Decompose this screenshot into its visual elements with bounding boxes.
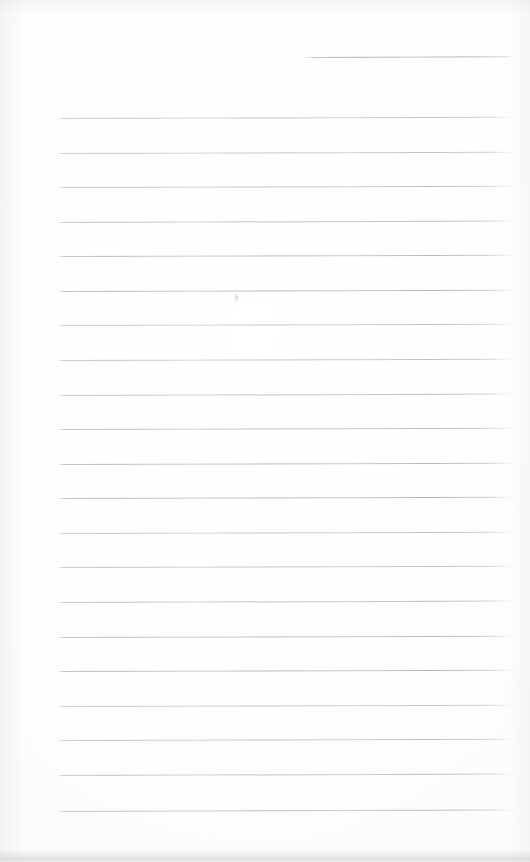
rule-line	[57, 635, 513, 637]
rule-line	[57, 739, 513, 741]
rule-line	[57, 497, 513, 499]
rule-line	[57, 566, 513, 568]
rule-line	[57, 186, 513, 188]
rule-line	[57, 462, 513, 464]
rule-line	[57, 393, 513, 395]
rule-line	[57, 809, 513, 812]
ruled-lines-layer	[0, 0, 530, 862]
rule-line	[57, 601, 513, 603]
scanned-page	[0, 0, 530, 862]
rule-line	[57, 290, 513, 292]
rule-line	[57, 773, 513, 775]
rule-line	[57, 428, 513, 430]
rule-line	[57, 220, 513, 222]
rule-line	[57, 117, 513, 119]
rule-line	[57, 324, 513, 326]
rule-line	[57, 670, 513, 672]
rule-line	[57, 255, 513, 257]
rule-line	[57, 532, 513, 534]
rule-line	[57, 151, 513, 153]
rule-line	[57, 704, 513, 706]
rule-line	[57, 359, 513, 361]
